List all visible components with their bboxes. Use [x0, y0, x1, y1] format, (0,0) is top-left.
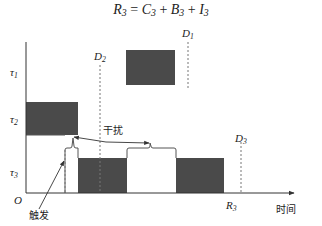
response-symbol: R	[226, 199, 233, 211]
deadline-d3-label: D3	[235, 133, 247, 146]
deadline-symbol: D	[182, 27, 190, 39]
formula-equals: =	[127, 2, 142, 17]
deadline-d1-label: D1	[182, 28, 194, 41]
trigger-arrow	[39, 161, 64, 209]
formula-plus-1: +	[156, 2, 171, 17]
deadline-d2-label: D2	[94, 51, 106, 64]
response-r3-label: R3	[226, 200, 237, 213]
trigger-label: 触发	[29, 211, 49, 221]
formula-i-sub: 3	[204, 7, 209, 18]
formula-plus-2: +	[184, 2, 199, 17]
task3-execution-block-2	[176, 158, 224, 193]
task3-execution-block-1	[78, 158, 127, 193]
y-tick-tau1: τ1	[10, 67, 18, 80]
response-time-formula: R3 = C3 + B3 + I3	[0, 3, 322, 18]
task1-execution-block	[126, 50, 175, 85]
deadline-symbol: D	[235, 132, 243, 144]
interference-arrow-left	[74, 137, 106, 142]
formula-c: C	[142, 2, 151, 17]
interference-label: 干扰	[103, 126, 123, 136]
response-subscript: 3	[233, 204, 237, 213]
deadline-symbol: D	[94, 50, 102, 62]
y-tick-tau3: τ3	[10, 167, 18, 180]
tick-subscript: 3	[14, 171, 18, 180]
schedule-diagram	[0, 0, 322, 226]
origin-label: O	[14, 195, 22, 206]
interference-arrow-right	[106, 142, 149, 143]
task2-execution-block	[26, 102, 78, 135]
deadline-subscript: 1	[190, 32, 194, 41]
tick-subscript: 1	[14, 71, 18, 80]
deadline-subscript: 3	[243, 137, 247, 146]
deadline-subscript: 2	[102, 55, 106, 64]
formula-r: R	[113, 2, 122, 17]
x-axis-label: 时间	[276, 205, 296, 215]
y-tick-tau2: τ2	[10, 114, 18, 127]
tick-subscript: 2	[14, 118, 18, 127]
